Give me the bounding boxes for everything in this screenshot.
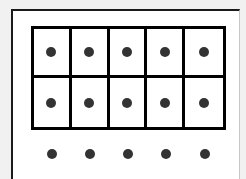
grid-cell (147, 78, 185, 127)
grid-cell (185, 29, 223, 78)
dot-icon (199, 47, 209, 57)
grid-cell (110, 78, 148, 127)
grid-cell (72, 78, 110, 127)
grid-cell (34, 78, 72, 127)
grid-cell (72, 29, 110, 78)
dot-icon (160, 47, 170, 57)
dot-icon (160, 98, 170, 108)
ten-frame-grid (31, 26, 226, 130)
grid-cell (34, 29, 72, 78)
dot-icon (122, 47, 132, 57)
canvas (0, 0, 246, 179)
dot-icon (122, 98, 132, 108)
grid-cell (185, 78, 223, 127)
dot-icon (84, 47, 94, 57)
dot-icon (84, 98, 94, 108)
dot-icon (199, 98, 209, 108)
grid-cell (147, 29, 185, 78)
grid-cell (110, 29, 148, 78)
dot-icon (46, 47, 56, 57)
dot-icon (46, 98, 56, 108)
